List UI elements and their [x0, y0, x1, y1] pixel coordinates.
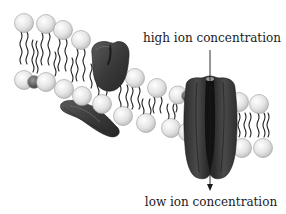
ion-channel — [184, 76, 237, 179]
low-concentration-label: low ion concentration — [145, 195, 277, 209]
high-concentration-label: high ion concentration — [143, 31, 281, 45]
peripheral-protein — [92, 42, 129, 92]
arrowhead-down-icon — [207, 184, 213, 191]
membrane-diagram: high ion concentration low ion concentra… — [0, 0, 286, 214]
